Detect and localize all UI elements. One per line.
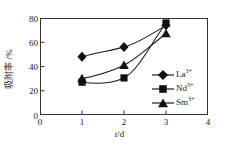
x-tick-label-3: 3 (156, 118, 176, 127)
legend-item-sm: Sm3+ (152, 94, 204, 108)
legend-label-sm: Sm3+ (174, 95, 194, 107)
marker-nd-2 (120, 74, 127, 81)
marker-nd-3 (162, 19, 169, 26)
marker-sm-2 (119, 61, 129, 69)
chart-figure: 吸附率 /% 0 20 40 60 80 0 1 2 3 4 t/d (0, 0, 239, 151)
marker-la-2 (119, 42, 128, 52)
x-tick-label-4: 4 (198, 118, 218, 127)
legend-diamond-icon (152, 67, 174, 79)
legend-item-nd: Nd3+ (152, 80, 204, 94)
marker-la-1 (77, 52, 86, 62)
legend-square-icon (152, 81, 174, 93)
x-axis-title: t/d (0, 129, 239, 139)
x-tick-label-2: 2 (114, 118, 134, 127)
x-axis-title-unit: /d (117, 129, 124, 139)
marker-sm-3 (161, 29, 171, 37)
x-tick-label-1: 1 (72, 118, 92, 127)
legend-label-la: La3+ (174, 67, 192, 79)
chart-legend: La3+ Nd3+ Sm3+ (152, 66, 204, 108)
x-axis-ticks (82, 111, 166, 116)
legend-label-nd: Nd3+ (174, 81, 193, 93)
x-tick-label-0: 0 (30, 118, 50, 127)
legend-triangle-icon (152, 95, 174, 107)
legend-item-la: La3+ (152, 66, 204, 80)
y-axis-ticks (40, 42, 45, 91)
